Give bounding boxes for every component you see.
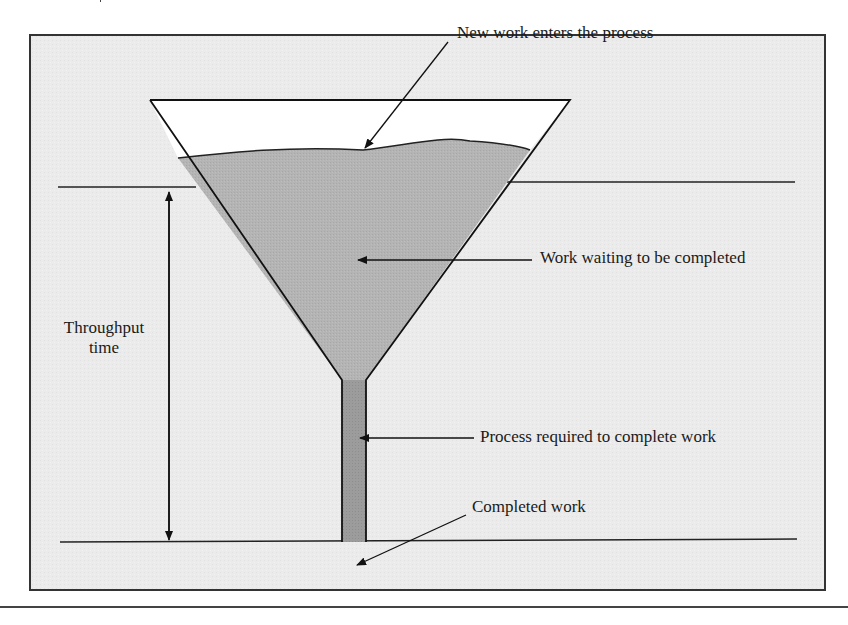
completed-work-label: Completed work [472, 497, 586, 517]
work-waiting-label: Work waiting to be completed [540, 248, 745, 268]
throughput-label-line1: Throughput [52, 318, 156, 338]
throughput-time-label: Throughput time [52, 318, 156, 358]
throughput-label-line2: time [52, 338, 156, 358]
new-work-label: New work enters the process [457, 23, 653, 43]
process-required-label: Process required to complete work [480, 427, 716, 447]
funnel-diagram [0, 0, 848, 625]
process-tube [342, 380, 366, 542]
